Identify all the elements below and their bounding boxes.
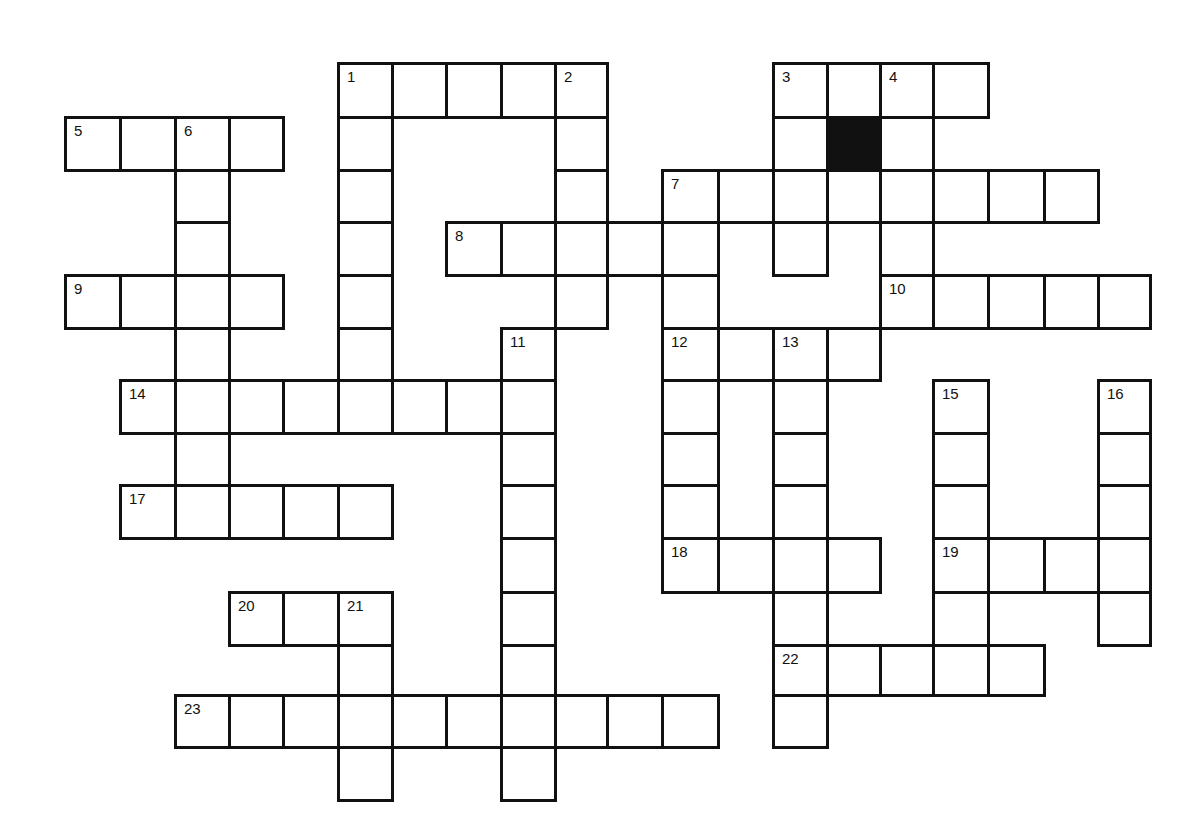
crossword-cell[interactable] [932, 169, 990, 224]
crossword-cell[interactable] [337, 116, 394, 172]
crossword-cell[interactable] [1097, 484, 1152, 540]
crossword-cell[interactable] [661, 379, 720, 435]
crossword-cell[interactable] [1097, 591, 1152, 647]
crossword-cell[interactable]: 20 [228, 591, 285, 647]
crossword-cell[interactable] [772, 379, 829, 435]
crossword-cell[interactable] [500, 379, 557, 435]
crossword-cell[interactable] [337, 274, 394, 330]
crossword-cell[interactable] [554, 116, 609, 172]
crossword-cell[interactable] [932, 591, 990, 647]
crossword-cell[interactable] [879, 169, 935, 224]
crossword-cell[interactable] [500, 694, 557, 749]
crossword-cell[interactable] [174, 432, 231, 487]
crossword-cell[interactable] [932, 432, 990, 487]
crossword-cell[interactable] [228, 274, 285, 330]
crossword-cell[interactable] [717, 169, 775, 224]
crossword-cell[interactable] [282, 379, 340, 435]
crossword-cell[interactable] [772, 221, 829, 277]
crossword-cell[interactable] [228, 694, 285, 749]
crossword-cell[interactable] [228, 379, 285, 435]
crossword-cell[interactable] [1097, 274, 1152, 330]
crossword-cell[interactable] [1043, 537, 1100, 594]
crossword-cell[interactable] [987, 274, 1046, 330]
crossword-cell[interactable] [174, 274, 231, 330]
crossword-cell[interactable] [717, 327, 775, 382]
crossword-cell[interactable]: 16 [1097, 379, 1152, 435]
crossword-cell[interactable] [717, 537, 775, 594]
crossword-cell[interactable] [554, 694, 609, 749]
crossword-cell[interactable] [174, 484, 231, 540]
crossword-cell[interactable] [445, 62, 503, 119]
crossword-cell[interactable] [554, 221, 609, 277]
crossword-cell[interactable] [500, 221, 557, 277]
crossword-cell[interactable] [337, 644, 394, 697]
crossword-cell[interactable] [500, 484, 557, 540]
crossword-cell[interactable] [500, 432, 557, 487]
crossword-cell[interactable]: 5 [64, 116, 122, 172]
crossword-cell[interactable]: 3 [772, 62, 829, 119]
crossword-cell[interactable] [826, 537, 882, 594]
crossword-cell[interactable] [1043, 274, 1100, 330]
crossword-cell[interactable] [337, 221, 394, 277]
crossword-cell[interactable] [554, 169, 609, 224]
crossword-cell[interactable] [661, 432, 720, 487]
crossword-cell[interactable]: 4 [879, 62, 935, 119]
crossword-cell[interactable] [282, 484, 340, 540]
crossword-cell[interactable] [119, 274, 177, 330]
crossword-cell[interactable] [337, 746, 394, 802]
crossword-cell[interactable] [1097, 537, 1152, 594]
crossword-cell[interactable] [1097, 432, 1152, 487]
crossword-cell[interactable] [500, 62, 557, 119]
crossword-cell[interactable]: 14 [119, 379, 177, 435]
crossword-cell[interactable] [987, 537, 1046, 594]
crossword-cell[interactable]: 13 [772, 327, 829, 382]
crossword-cell[interactable] [772, 169, 829, 224]
crossword-cell[interactable] [228, 116, 285, 172]
crossword-cell[interactable] [987, 169, 1046, 224]
crossword-cell[interactable] [445, 379, 503, 435]
crossword-cell[interactable] [826, 62, 882, 119]
crossword-cell[interactable] [606, 694, 664, 749]
crossword-cell[interactable] [337, 169, 394, 224]
crossword-cell[interactable]: 6 [174, 116, 231, 172]
crossword-cell[interactable] [661, 274, 720, 330]
crossword-cell[interactable]: 22 [772, 644, 829, 697]
crossword-cell[interactable] [500, 537, 557, 594]
crossword-cell[interactable] [228, 484, 285, 540]
crossword-cell[interactable] [826, 169, 882, 224]
crossword-cell[interactable] [879, 221, 935, 277]
crossword-cell[interactable] [282, 591, 340, 647]
crossword-cell[interactable] [987, 644, 1046, 697]
crossword-cell[interactable] [879, 116, 935, 172]
crossword-cell[interactable] [772, 432, 829, 487]
crossword-cell[interactable] [174, 221, 231, 277]
crossword-cell[interactable] [772, 694, 829, 749]
crossword-cell[interactable]: 18 [661, 537, 720, 594]
crossword-cell[interactable] [174, 327, 231, 382]
crossword-cell[interactable] [500, 746, 557, 802]
crossword-cell[interactable] [826, 327, 882, 382]
crossword-cell[interactable]: 7 [661, 169, 720, 224]
crossword-cell[interactable]: 19 [932, 537, 990, 594]
crossword-cell[interactable] [772, 484, 829, 540]
crossword-cell[interactable]: 21 [337, 591, 394, 647]
crossword-cell[interactable] [879, 644, 935, 697]
crossword-cell[interactable] [500, 591, 557, 647]
crossword-cell[interactable] [391, 379, 448, 435]
crossword-cell[interactable] [119, 116, 177, 172]
crossword-cell[interactable] [174, 379, 231, 435]
crossword-cell[interactable] [772, 116, 829, 172]
crossword-cell[interactable] [932, 644, 990, 697]
crossword-cell[interactable] [772, 591, 829, 647]
crossword-cell[interactable]: 8 [445, 221, 503, 277]
crossword-cell[interactable] [661, 221, 720, 277]
crossword-cell[interactable] [932, 62, 990, 119]
crossword-cell[interactable] [500, 644, 557, 697]
crossword-cell[interactable] [337, 327, 394, 382]
crossword-cell[interactable] [772, 537, 829, 594]
crossword-cell[interactable] [391, 694, 448, 749]
crossword-cell[interactable] [174, 169, 231, 224]
crossword-cell[interactable] [337, 484, 394, 540]
crossword-cell[interactable] [337, 379, 394, 435]
crossword-cell[interactable]: 9 [64, 274, 122, 330]
